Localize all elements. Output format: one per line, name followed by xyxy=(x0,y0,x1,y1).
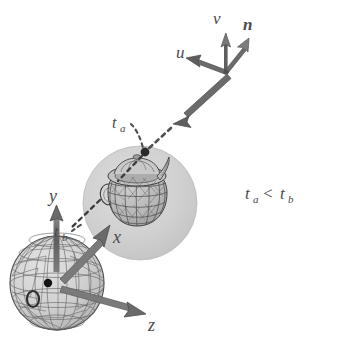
label-z-axis: z xyxy=(147,315,155,335)
inequality-lhs-sub: a xyxy=(253,193,259,205)
inequality-operator: < xyxy=(262,184,273,203)
ray-dashed-to-ta xyxy=(147,128,171,150)
label-tb-base: t xyxy=(54,223,59,240)
inequality-rhs: t xyxy=(280,184,286,203)
label-ta: t a xyxy=(112,114,126,134)
leader-ta xyxy=(131,124,143,148)
label-tb-subscript: b xyxy=(62,231,68,243)
vector-u xyxy=(186,55,226,74)
ray-tracing-diagram: u v n y x z t a t b t a < t b xyxy=(0,0,345,348)
label-y-axis: y xyxy=(47,186,57,206)
inequality-rhs-sub: b xyxy=(288,193,294,205)
inequality-lhs: t xyxy=(245,184,251,203)
label-v: v xyxy=(213,9,221,28)
origin-dot xyxy=(44,279,52,287)
label-ta-base: t xyxy=(112,114,117,131)
inequality-annotation: t a < t b xyxy=(245,184,294,205)
camera-basis xyxy=(186,33,249,75)
diagram-canvas: u v n y x z t a t b t a < t b xyxy=(0,0,345,348)
label-n: n xyxy=(243,15,252,34)
label-u: u xyxy=(176,43,185,62)
label-x-axis: x xyxy=(112,227,121,247)
label-ta-subscript: a xyxy=(120,122,126,134)
